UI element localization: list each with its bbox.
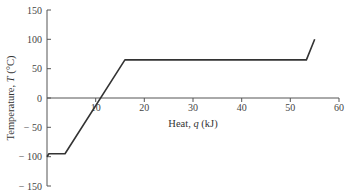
svg-text:150: 150 (27, 5, 42, 16)
svg-text:− 150: − 150 (19, 181, 42, 192)
svg-text:100: 100 (27, 34, 42, 45)
svg-text:50: 50 (285, 102, 295, 113)
svg-text:60: 60 (334, 102, 344, 113)
svg-text:40: 40 (237, 102, 247, 113)
svg-text:20: 20 (139, 102, 149, 113)
svg-text:− 100: − 100 (19, 151, 42, 162)
svg-text:− 50: − 50 (24, 122, 42, 133)
x-axis-label: Heat, q (kJ) (168, 118, 218, 130)
y-ticks (47, 10, 51, 186)
svg-text:30: 30 (188, 102, 198, 113)
y-tick-labels: 150 100 50 0 − 50 − 100 − 150 (19, 5, 42, 192)
svg-text:50: 50 (32, 63, 42, 74)
x-tick-labels: 10 20 30 40 50 60 (91, 102, 344, 113)
y-axis-label: Temperature, T (°C) (5, 55, 17, 140)
x-ticks (96, 98, 339, 102)
chart: 150 100 50 0 − 50 − 100 − 150 10 20 30 4… (0, 0, 346, 195)
svg-text:0: 0 (37, 93, 42, 104)
